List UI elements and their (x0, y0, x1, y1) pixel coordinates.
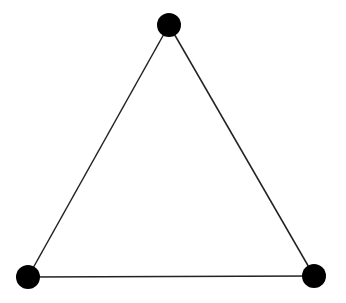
edges (28, 25, 314, 277)
edge-top-bottom-right (169, 25, 314, 276)
node-bottom-right (302, 264, 326, 288)
nodes (16, 13, 326, 289)
edge-top-bottom-left (28, 25, 169, 277)
node-top (157, 13, 181, 37)
edge-bottom-left-bottom-right (28, 276, 314, 277)
triangle-diagram (0, 0, 346, 303)
node-bottom-left (16, 265, 40, 289)
